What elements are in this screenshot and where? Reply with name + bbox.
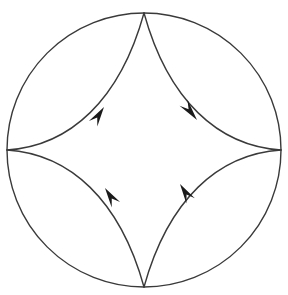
geometry-diagram [0,0,288,295]
figure-background [0,0,288,295]
figure-root [0,0,288,295]
